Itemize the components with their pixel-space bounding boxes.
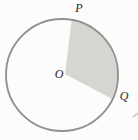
point-label-p: P [75,2,82,14]
center-label-o: O [55,68,64,80]
geometry-figure: P O Q [0,0,138,140]
shaded-sector [65,20,117,99]
circle-sector-diagram [0,0,138,140]
point-label-q: Q [120,90,129,102]
